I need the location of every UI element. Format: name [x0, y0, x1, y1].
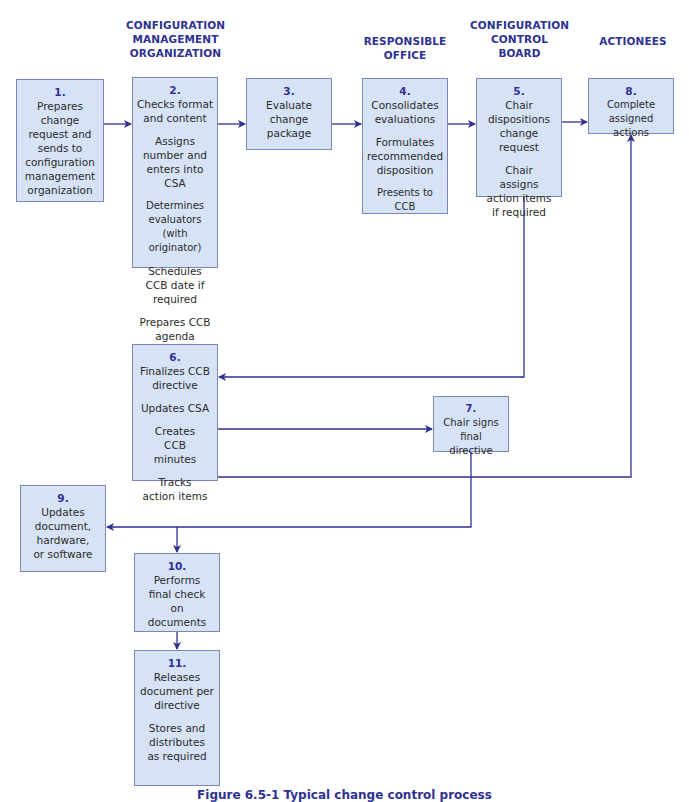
- step-8-box: 8. Complete assigned actions: [588, 78, 674, 134]
- step-number: 1.: [20, 85, 100, 99]
- step-number: 6.: [136, 350, 214, 364]
- step-number: 7.: [437, 402, 505, 416]
- step-number: 4.: [366, 84, 444, 98]
- step-5-box: 5. Chair dispositions change request Cha…: [476, 78, 562, 197]
- step-text: Schedules CCB date if required: [136, 264, 214, 306]
- figure-caption: Figure 6.5-1 Typical change control proc…: [0, 788, 689, 802]
- step-number: 10.: [138, 559, 216, 573]
- step-text: Evaluate change package: [250, 98, 328, 140]
- step-7-box: 7. Chair signs final directive: [433, 396, 509, 452]
- step-text: Presents to CCB: [366, 186, 444, 214]
- step-text: Consolidates evaluations: [366, 98, 444, 126]
- step-number: 8.: [592, 84, 670, 98]
- step-text: Assigns number and enters into CSA: [136, 134, 214, 190]
- step-9-box: 9. Updates document, hardware, or softwa…: [20, 485, 106, 572]
- step-text: Performs final check on documents: [138, 573, 216, 629]
- step-text: Formulates recommended disposition: [366, 135, 444, 177]
- step-number: 11.: [138, 656, 216, 670]
- step-text: Prepares CCB agenda: [136, 315, 214, 343]
- step-text: Finalizes CCB directive: [136, 364, 214, 392]
- step-text: Updates CSA: [136, 401, 214, 415]
- step-11-box: 11. Releases document per directive Stor…: [134, 650, 220, 786]
- step-number: 9.: [24, 491, 102, 505]
- step-3-box: 3. Evaluate change package: [246, 78, 332, 150]
- step-1-box: 1. Prepares change request and sends to …: [16, 79, 104, 202]
- step-text: Creates CCB minutes: [136, 424, 214, 466]
- step-text: Prepares change request and sends to con…: [20, 99, 100, 197]
- step-text: Chair assigns action items if required: [480, 163, 558, 219]
- step-text: Releases document per directive: [138, 670, 216, 712]
- step-number: 2.: [136, 83, 214, 97]
- step-text: Tracks action items: [136, 475, 214, 503]
- step-number: 5.: [480, 84, 558, 98]
- step-number: 3.: [250, 84, 328, 98]
- step-text: Complete assigned actions: [592, 98, 670, 140]
- step-6-box: 6. Finalizes CCB directive Updates CSA C…: [132, 344, 218, 481]
- step-text: Chair signs final directive: [437, 416, 505, 458]
- step-text: Chair dispositions change request: [480, 98, 558, 154]
- step-text: Checks format and content: [136, 97, 214, 125]
- step-text: Stores and distributes as required: [138, 721, 216, 763]
- step-2-box: 2. Checks format and content Assigns num…: [132, 77, 218, 268]
- step-4-box: 4. Consolidates evaluations Formulates r…: [362, 78, 448, 214]
- step-text: Determines evaluators (with originator): [136, 199, 214, 255]
- step-10-box: 10. Performs final check on documents: [134, 553, 220, 632]
- step-text: Updates document, hardware, or software: [24, 505, 102, 561]
